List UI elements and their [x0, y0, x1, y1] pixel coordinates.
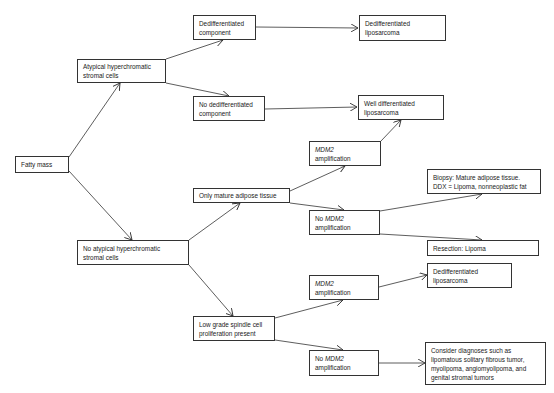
node-text: No dedifferentiated — [199, 100, 259, 109]
node-text-italic: MDM2 — [315, 280, 334, 287]
node-text: amplification — [315, 288, 373, 297]
node-no-atypical-hyperchromatic: No atypical hyperchromatic stromal cells — [77, 240, 189, 265]
node-dedifferentiated-liposarcoma-low: Dedifferentiated liposarcoma — [427, 263, 512, 288]
node-text: Biopsy: Mature adipose tissue. — [433, 173, 535, 182]
node-dedifferentiated-component: Dedifferentiated component — [193, 15, 256, 40]
node-fatty-mass: Fatty mass — [15, 156, 69, 173]
node-text: Atypical hyperchromatic — [83, 62, 160, 71]
node-text: amplification — [315, 154, 375, 163]
node-no-mdm2-amplification-low: No MDM2 amplification — [309, 350, 379, 376]
node-text: component — [199, 109, 259, 118]
node-text: Consider diagnoses such as — [431, 346, 540, 355]
node-text: genital stromal tumors — [431, 373, 540, 382]
node-text: liposarcoma — [433, 276, 506, 285]
node-atypical-hyperchromatic: Atypical hyperchromatic stromal cells — [77, 59, 166, 83]
node-mdm2-amplification-low: MDM2 amplification — [309, 275, 379, 300]
node-text: Dedifferentiated — [199, 19, 250, 28]
node-text: Well differentiated — [364, 99, 438, 108]
node-text: No — [315, 355, 325, 362]
node-text: amplification — [315, 363, 373, 372]
node-consider-diagnoses: Consider diagnoses such as lipomatous so… — [425, 342, 546, 385]
node-text-italic: MDM2 — [325, 355, 344, 362]
node-text-italic: MDM2 — [315, 146, 334, 153]
node-text: Low grade spindle cell — [199, 320, 269, 329]
node-dedifferentiated-liposarcoma-top: Dedifferentiated liposarcoma — [359, 15, 446, 41]
node-no-mdm2-amplification-mid: No MDM2 amplification — [309, 210, 380, 235]
node-text: amplification — [315, 223, 374, 232]
node-text: DDX = Lipoma, nonneoplastic fat — [433, 182, 535, 191]
node-text: Only mature adipose tissue — [199, 191, 284, 200]
node-text: liposarcoma — [364, 108, 438, 117]
node-text: component — [199, 28, 250, 37]
node-text: lipomatous solitary fibrous tumor, — [431, 355, 540, 364]
node-text: Dedifferentiated — [365, 19, 440, 28]
node-low-grade-spindle: Low grade spindle cell proliferation pre… — [193, 316, 275, 341]
node-text: stromal cells — [83, 71, 160, 80]
node-well-differentiated-liposarcoma: Well differentiated liposarcoma — [358, 95, 444, 120]
node-text: proliferation present — [199, 329, 269, 338]
node-text: liposarcoma — [365, 28, 440, 37]
node-text: No atypical hyperchromatic — [83, 244, 183, 253]
node-text: myolipoma, angiomyolipoma, and — [431, 364, 540, 373]
node-only-mature-adipose: Only mature adipose tissue — [193, 188, 290, 203]
node-text: stromal cells — [83, 253, 183, 262]
node-no-dedifferentiated-component: No dedifferentiated component — [193, 96, 265, 121]
node-text: Dedifferentiated — [433, 267, 506, 276]
node-text: No — [315, 215, 325, 222]
node-text: Fatty mass — [21, 160, 63, 169]
node-mdm2-amplification-top: MDM2 amplification — [309, 141, 381, 166]
node-biopsy: Biopsy: Mature adipose tissue. DDX = Lip… — [427, 169, 541, 194]
node-resection-lipoma: Resection: Lipoma — [427, 240, 539, 256]
node-text: Resection: Lipoma — [433, 244, 533, 253]
node-text-italic: MDM2 — [325, 215, 344, 222]
